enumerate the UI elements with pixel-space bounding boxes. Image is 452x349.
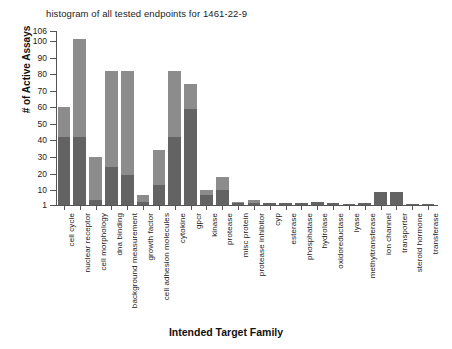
y-tick-label: 30 (21, 152, 47, 162)
bar (343, 204, 356, 206)
y-tick-label: 40 (21, 135, 47, 145)
y-tick-label: 50 (21, 119, 47, 129)
x-tick-label: lyase (352, 213, 361, 232)
bar-segment-active (295, 203, 308, 205)
bar (216, 177, 229, 205)
x-tick-label: transferase (431, 213, 440, 254)
x-tick (159, 205, 160, 210)
bar (295, 203, 308, 205)
bar (184, 84, 197, 205)
bar (374, 192, 387, 205)
y-tick-label: 100 (21, 36, 47, 46)
x-tick (412, 205, 413, 210)
bar-segment-active (327, 203, 340, 205)
bar (327, 203, 340, 205)
x-tick (64, 205, 65, 210)
x-tick (127, 205, 128, 210)
bar (358, 203, 371, 205)
x-tick-label: esterase (289, 213, 298, 244)
bar (390, 192, 403, 205)
y-tick-label: 70 (21, 86, 47, 96)
bar (248, 200, 261, 205)
y-tick-label: 90 (21, 53, 47, 63)
bar (73, 39, 86, 205)
bar-segment-active (390, 192, 403, 205)
x-tick (238, 205, 239, 210)
x-tick (286, 205, 287, 210)
bar-segment-active (279, 203, 292, 205)
x-tick-label: nuclear receptor (83, 213, 92, 272)
y-tick-label: 1 (21, 200, 47, 210)
bar (311, 202, 324, 205)
x-tick-label: oxidoreductase (336, 213, 345, 269)
y-tick-label: 60 (21, 102, 47, 112)
x-tick-label: misc protein (241, 213, 250, 257)
x-tick (222, 205, 223, 210)
x-tick-label: cell adhesion molecules (162, 213, 171, 300)
bar (105, 71, 118, 205)
bar-segment-active (422, 204, 435, 206)
y-tick-label: 10 (21, 185, 47, 195)
y-tick-label: 80 (21, 69, 47, 79)
x-tick-label: protease (225, 213, 234, 245)
x-tick (206, 205, 207, 210)
x-tick-label: cell cycle (67, 213, 76, 246)
x-tick-label: steroid hormone (415, 213, 424, 272)
x-tick-label: background measurement (130, 213, 139, 308)
bar-segment-active (168, 137, 181, 205)
bar (263, 203, 276, 205)
x-tick (381, 205, 382, 210)
y-tick-label: 106 (21, 26, 47, 36)
bar-segment-active (200, 195, 213, 205)
bar-segment-active (311, 202, 324, 205)
bar (422, 204, 435, 206)
x-tick-label: transporter (400, 213, 409, 253)
x-axis-title: Intended Target Family (0, 326, 452, 338)
x-tick (96, 205, 97, 210)
bar (406, 204, 419, 206)
bar-segment-active (216, 190, 229, 205)
chart-title: histogram of all tested endpoints for 14… (46, 8, 247, 19)
bar (168, 71, 181, 205)
bar-segment-active (263, 203, 276, 205)
x-tick (333, 205, 334, 210)
bar-segment-active (232, 203, 245, 205)
histogram-figure: histogram of all tested endpoints for 14… (0, 0, 452, 349)
x-tick (175, 205, 176, 210)
bar-segment-active (374, 192, 387, 205)
x-tick-label: methyltransferase (368, 213, 377, 278)
bar-segment-active (89, 200, 102, 205)
bar-segment-active (343, 204, 356, 206)
bar-segment-active (105, 167, 118, 205)
x-tick (317, 205, 318, 210)
x-tick-label: phosphatase (305, 213, 314, 260)
x-tick (365, 205, 366, 210)
x-tick (80, 205, 81, 210)
x-tick-label: kinase (210, 213, 219, 237)
bar (279, 203, 292, 205)
bar (121, 71, 134, 205)
x-tick-label: protease inhibitor (257, 213, 266, 276)
bar-segment-active (406, 204, 419, 206)
bar (137, 195, 150, 205)
x-tick-label: cyp (273, 213, 282, 226)
bar (200, 190, 213, 205)
bar (153, 150, 166, 205)
x-tick-label: dna binding (115, 213, 124, 255)
bar-segment-tested (89, 157, 102, 205)
x-tick (349, 205, 350, 210)
x-tick (270, 205, 271, 210)
x-tick-label: ion channel (384, 213, 393, 255)
bar-segment-active (153, 185, 166, 205)
bar-segment-active (137, 202, 150, 205)
bar (89, 157, 102, 205)
bar (232, 202, 245, 205)
x-tick (143, 205, 144, 210)
x-tick (111, 205, 112, 210)
bar-segment-active (73, 137, 86, 205)
y-tick (50, 205, 56, 206)
x-tick-label: hydrolase (320, 213, 329, 249)
bar (58, 107, 71, 205)
x-tick (191, 205, 192, 210)
x-tick (428, 205, 429, 210)
